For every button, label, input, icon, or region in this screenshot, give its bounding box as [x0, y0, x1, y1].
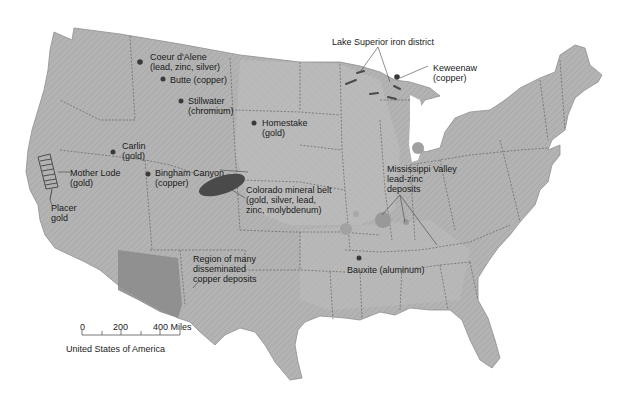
mississippi-deposit-2	[403, 219, 409, 225]
label-mississippi-valley: Mississippi Valley lead-zinc deposits	[387, 164, 457, 194]
label-stillwater: Stillwater (chromium)	[188, 96, 234, 116]
scale-tick-200: 200	[113, 322, 128, 332]
label-copper-region: Region of many disseminated copper depos…	[193, 254, 257, 284]
copper-region	[118, 250, 182, 318]
label-placer-gold: Placer gold	[51, 203, 77, 223]
label-bingham-canyon: Bingham Canyon (copper)	[155, 168, 224, 188]
label-butte: Butte (copper)	[170, 75, 227, 85]
scale-tick-400: 400 Miles	[153, 322, 192, 332]
label-mother-lode: Mother Lode (gold)	[70, 168, 121, 188]
map-caption: United States of America	[66, 344, 165, 354]
label-lake-superior: Lake Superior iron district	[332, 37, 434, 47]
mississippi-deposit-1	[375, 212, 391, 228]
scale-bar: 0 200 400 Miles United States of America	[78, 322, 218, 362]
label-colorado-mineral-belt: Colorado mineral belt (gold, silver, lea…	[246, 185, 332, 215]
label-carlin: Carlin (gold)	[122, 141, 146, 161]
label-homestake: Homestake (gold)	[262, 118, 308, 138]
label-keweenaw: Keweenaw (copper)	[433, 63, 477, 83]
label-coeur-dalene: Coeur d'Alene (lead, zinc, silver)	[150, 52, 220, 72]
us-mineral-deposits-map: Coeur d'Alene (lead, zinc, silver) Butte…	[0, 0, 621, 413]
label-bauxite: Bauxite (aluminum)	[347, 265, 425, 275]
scale-tick-0: 0	[80, 322, 85, 332]
